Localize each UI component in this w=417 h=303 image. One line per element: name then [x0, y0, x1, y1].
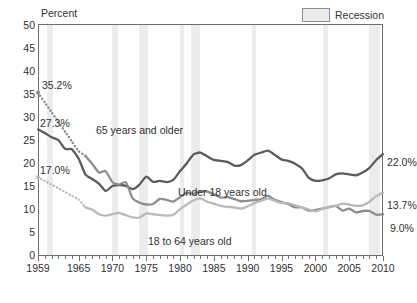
label-65-and-older: 65 years and older [96, 124, 183, 136]
x-tick-label-2010: 2010 [363, 262, 403, 274]
x-tick-mark-1997 [295, 256, 296, 259]
y-tick-50: 50 [5, 19, 35, 31]
legend: Recession [302, 8, 384, 22]
x-tick-mark-1990 [248, 256, 249, 261]
y-tick-45: 45 [5, 42, 35, 54]
x-tick-mark-1980 [180, 256, 181, 261]
label-under-18: Under 18 years old [178, 186, 267, 198]
x-tick-mark-2010 [383, 256, 384, 261]
start-label-18-64: 17.0% [40, 164, 70, 176]
x-tick-mark-1959 [38, 256, 39, 261]
x-tick-mark-1992 [261, 256, 262, 259]
y-tick-0: 0 [5, 249, 35, 261]
x-tick-mark-1993 [268, 256, 269, 259]
start-label-under-18: 27.3% [40, 117, 70, 129]
x-tick-mark-1978 [167, 256, 168, 259]
y-tick-30: 30 [5, 111, 35, 123]
label-18-to-64: 18 to 64 years old [148, 235, 231, 247]
x-tick-label-1959: 1959 [18, 262, 58, 274]
x-tick-mark-1976 [153, 256, 154, 259]
x-tick-mark-2005 [349, 256, 350, 261]
x-tick-mark-1996 [288, 256, 289, 259]
y-tick-25: 25 [5, 134, 35, 146]
x-tick-mark-2004 [342, 256, 343, 259]
start-label-65-older: 35.2% [42, 79, 72, 91]
x-tick-mark-1983 [200, 256, 201, 259]
x-tick-mark-1998 [302, 256, 303, 259]
x-tick-mark-1964 [72, 256, 73, 259]
x-tick-mark-1995 [282, 256, 283, 261]
recession-swatch-icon [302, 8, 330, 22]
x-tick-mark-1986 [221, 256, 222, 259]
x-tick-mark-1994 [275, 256, 276, 259]
x-tick-mark-1968 [99, 256, 100, 259]
end-label-under-18: 22.0% [387, 156, 417, 168]
y-tick-5: 5 [5, 226, 35, 238]
series-lines [38, 24, 383, 256]
x-tick-mark-1975 [146, 256, 147, 261]
x-tick-mark-1970 [112, 256, 113, 261]
x-tick-mark-2009 [376, 256, 377, 259]
y-tick-40: 40 [5, 65, 35, 77]
x-tick-mark-1965 [79, 256, 80, 261]
y-tick-10: 10 [5, 203, 35, 215]
x-tick-mark-2000 [315, 256, 316, 261]
x-tick-mark-1962 [58, 256, 59, 259]
x-tick-mark-1999 [309, 256, 310, 259]
x-tick-mark-1963 [65, 256, 66, 259]
end-label-65-older: 13.7% [387, 199, 417, 211]
x-tick-mark-1972 [126, 256, 127, 259]
x-tick-mark-1988 [234, 256, 235, 259]
x-tick-mark-2002 [329, 256, 330, 259]
x-tick-mark-1984 [207, 256, 208, 259]
x-tick-mark-1981 [187, 256, 188, 259]
x-tick-mark-2001 [322, 256, 323, 259]
x-tick-mark-1974 [139, 256, 140, 259]
y-tick-15: 15 [5, 180, 35, 192]
x-tick-mark-1985 [214, 256, 215, 261]
legend-label-recession: Recession [335, 9, 384, 21]
x-tick-mark-2007 [363, 256, 364, 259]
x-tick-mark-2008 [369, 256, 370, 259]
x-tick-mark-1977 [160, 256, 161, 259]
plot-area: 65 years and older Under 18 years old 18… [38, 24, 383, 256]
x-tick-mark-1960 [45, 256, 46, 259]
y-axis-title: Percent [41, 7, 77, 19]
x-tick-mark-1967 [92, 256, 93, 259]
x-tick-mark-1979 [173, 256, 174, 259]
x-tick-mark-1982 [194, 256, 195, 259]
x-tick-mark-1971 [119, 256, 120, 259]
end-label-18-64: 9.0% [390, 222, 414, 234]
x-tick-mark-1973 [133, 256, 134, 259]
x-tick-mark-1969 [106, 256, 107, 259]
x-tick-mark-1987 [227, 256, 228, 259]
chart-root: Recession Percent 50 45 40 35 30 25 20 1… [0, 0, 417, 303]
x-tick-mark-1991 [254, 256, 255, 259]
y-tick-20: 20 [5, 157, 35, 169]
x-tick-mark-1989 [241, 256, 242, 259]
x-tick-mark-1966 [85, 256, 86, 259]
x-tick-mark-2003 [336, 256, 337, 259]
x-tick-mark-2006 [356, 256, 357, 259]
x-tick-mark-1961 [52, 256, 53, 259]
y-tick-35: 35 [5, 88, 35, 100]
